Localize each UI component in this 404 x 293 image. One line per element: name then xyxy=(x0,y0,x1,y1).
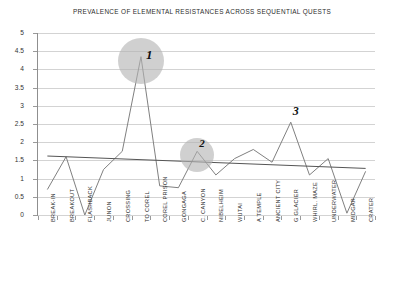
x-axis-tick-mark xyxy=(225,216,226,220)
y-axis-tick-mark xyxy=(33,215,37,216)
chart-title: PREVALENCE OF ELEMENTAL RESISTANCES ACRO… xyxy=(0,8,404,15)
x-axis-tick-label: TO COREL xyxy=(144,191,150,222)
x-axis-tick-label: BREAKOUT xyxy=(69,189,75,222)
x-axis-tick-mark xyxy=(38,216,39,220)
y-axis-tick-label: 4 xyxy=(0,65,24,72)
y-axis-tick-mark xyxy=(33,88,37,89)
x-axis-tick-mark xyxy=(263,216,264,220)
y-axis-tick-label: 2 xyxy=(0,138,24,145)
y-axis-tick-label: 1.5 xyxy=(0,156,24,163)
x-axis-tick-label: GONGAGA xyxy=(181,191,187,222)
annotation-number: 2 xyxy=(199,137,205,149)
x-axis-tick-label: G GLACIER xyxy=(293,189,299,222)
y-axis-tick-label: 4.5 xyxy=(0,47,24,54)
y-axis-tick-label: 2.5 xyxy=(0,120,24,127)
x-axis-tick-label: JUNON xyxy=(106,201,112,222)
x-axis-tick-mark xyxy=(113,216,114,220)
x-axis-tick-label: UNDERWATER xyxy=(331,180,337,222)
x-axis-tick-label: FLASHBACK xyxy=(87,186,93,222)
annotation-number: 3 xyxy=(293,104,299,119)
annotation-highlight-circle xyxy=(118,38,164,84)
x-axis-tick-mark xyxy=(188,216,189,220)
x-axis-tick-label: CROSSING xyxy=(125,190,131,222)
y-axis-tick-label: 0 xyxy=(0,211,24,218)
x-axis-tick-mark xyxy=(375,216,376,220)
x-axis-tick-label: C. CANYON xyxy=(200,188,206,222)
y-axis-tick-mark xyxy=(33,33,37,34)
x-axis-tick-label: CRATER xyxy=(368,198,374,222)
y-axis-tick-label: 1 xyxy=(0,175,24,182)
y-axis-tick-mark xyxy=(33,160,37,161)
x-axis-tick-mark xyxy=(356,216,357,220)
x-axis-tick-mark xyxy=(281,216,282,220)
x-axis-tick-mark xyxy=(338,216,339,220)
y-axis-tick-mark xyxy=(33,197,37,198)
y-axis-tick-mark xyxy=(33,142,37,143)
y-axis-tick-label: 3 xyxy=(0,102,24,109)
x-axis-tick-mark xyxy=(244,216,245,220)
y-axis-tick-mark xyxy=(33,51,37,52)
x-axis-tick-label: COREL PRISON xyxy=(162,176,168,222)
y-axis-tick-mark xyxy=(33,69,37,70)
x-axis-tick-mark xyxy=(150,216,151,220)
y-axis-tick-mark xyxy=(33,179,37,180)
x-axis-tick-label: ANCIENT CITY xyxy=(275,180,281,222)
x-axis-tick-mark xyxy=(169,216,170,220)
y-axis-tick-label: 5 xyxy=(0,29,24,36)
y-axis-tick-label: 3.5 xyxy=(0,84,24,91)
x-axis-tick-mark xyxy=(300,216,301,220)
x-axis-tick-label: MIDGAR xyxy=(350,198,356,222)
x-axis-tick-mark xyxy=(57,216,58,220)
x-axis-tick-mark xyxy=(94,216,95,220)
x-axis-tick-mark xyxy=(132,216,133,220)
chart-container: PREVALENCE OF ELEMENTAL RESISTANCES ACRO… xyxy=(0,0,404,293)
y-axis-tick-mark xyxy=(33,124,37,125)
x-axis-tick-label: NIBELHEIM xyxy=(218,189,224,222)
x-axis-tick-label: WUTAI xyxy=(237,203,243,222)
y-axis-tick-label: 0.5 xyxy=(0,193,24,200)
y-axis-tick-mark xyxy=(33,106,37,107)
annotation-number: 1 xyxy=(146,47,153,63)
x-axis-tick-mark xyxy=(207,216,208,220)
x-axis-tick-label: WHIRL. MAZE xyxy=(312,182,318,222)
x-axis-tick-label: A TEMPLE xyxy=(256,192,262,222)
x-axis-tick-mark xyxy=(75,216,76,220)
x-axis-tick-mark xyxy=(319,216,320,220)
x-axis-tick-label: BREAK-IN xyxy=(50,193,56,222)
